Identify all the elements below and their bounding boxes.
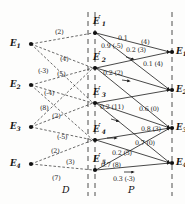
left-edge-label-d-e3-ep3: (2) — [52, 113, 60, 119]
dot-Ep4 — [93, 138, 97, 142]
right-edge-label-p-ep3-er3: 0.6 (0) — [139, 106, 159, 112]
node-label-E2: E2 — [10, 80, 21, 89]
node-label-Er3: E3 — [176, 123, 185, 132]
node-label-Ep4: E′4 — [93, 125, 106, 134]
figure-canvas: E1E2E3E4E′1E′2E′3E′4E′5E1E2E3E4 (2)(4)(5… — [0, 0, 185, 204]
right-edge-label-p-ep5-er4: 0.7 (8) — [101, 162, 121, 168]
node-subscript: 4 — [102, 128, 106, 135]
left-edge-label-d-e1-ep2: (4) — [60, 56, 68, 62]
node-subscript: 1 — [182, 50, 185, 57]
left-edge-label-d-e3-ep4: (-5) — [57, 134, 67, 140]
dot-E4 — [29, 162, 33, 166]
right-edge-label-p-ep3-er2: 0.2 (11) — [100, 104, 124, 110]
node-subscript: 2 — [16, 83, 20, 90]
dot-Ep5 — [93, 168, 97, 172]
node-label-Er1: E1 — [176, 47, 185, 56]
node-subscript: 4 — [182, 161, 185, 168]
region-P-label: P — [128, 184, 134, 195]
node-label-E4: E4 — [10, 159, 21, 168]
node-subscript: 1 — [102, 20, 106, 27]
node-label-Ep3: E′3 — [93, 88, 106, 97]
left-edge-label-d-e1-ep3: (5) — [57, 71, 65, 77]
right-edge-label-p-ep1-er1: 0.1 — [118, 35, 128, 41]
node-subscript: 3 — [182, 126, 185, 133]
right-edge-label-p-ep1-er1b: (4) — [141, 39, 149, 45]
dot-Ep1 — [93, 31, 97, 35]
node-prime-mark: ′ — [98, 122, 100, 132]
right-edge-label-p-ep5-er4b: 0.3 (-3) — [113, 176, 135, 182]
edge-p-ep4-er4 — [96, 140, 170, 163]
node-label-Er2: E2 — [176, 85, 185, 94]
edge-d-e2-ep4 — [31, 85, 93, 140]
node-label-E3: E3 — [10, 122, 21, 131]
node-prime-mark: ′ — [98, 50, 100, 60]
left-edge-label-d-e2-ep2: (-3) — [38, 68, 48, 74]
right-edge-label-p-ep4-er4b: 0.2 (5) — [112, 150, 132, 156]
node-subscript: 1 — [16, 42, 20, 49]
dot-E2 — [29, 83, 33, 87]
left-edge-label-d-e2-ep3: (-4) — [44, 90, 54, 96]
left-edge-label-d-e4-ep5b: (7) — [52, 175, 60, 181]
left-edge-label-d-e3-ep2: (8) — [40, 105, 48, 111]
node-label-Ep2: E′2 — [93, 53, 106, 62]
node-subscript: 2 — [182, 88, 185, 95]
node-label-E1: E1 — [10, 39, 21, 48]
dot-E1 — [29, 42, 33, 46]
edge-d-e4-ep5 — [31, 164, 93, 170]
dot-Ep2 — [93, 66, 97, 70]
edge-d-e4-ep4 — [31, 140, 93, 164]
left-edge-label-d-e1-ep1: (2) — [55, 29, 63, 35]
right-edge-label-p-ep2-er2: 0.1 (4) — [143, 61, 163, 67]
edge-p-ep3-er2 — [96, 90, 170, 103]
node-prime-mark: ′ — [98, 14, 100, 24]
right-edge-label-p-ep4-er3: 0.8 (3) — [141, 126, 161, 132]
dot-Er4 — [170, 161, 174, 165]
right-edge-label-p-ep2-er1: 0.2 (3) — [126, 47, 146, 53]
left-edge-label-d-e4-ep5: (3) — [66, 159, 74, 165]
dot-Er3 — [170, 126, 174, 130]
node-subscript: 2 — [102, 56, 106, 63]
edge-p-ep3-er4 — [96, 103, 170, 163]
dot-E3 — [29, 125, 33, 129]
node-label-Er4: E4 — [176, 158, 185, 167]
node-subscript: 3 — [102, 91, 106, 98]
left-edge-label-d-e4-ep4: (2) — [51, 148, 59, 154]
dot-Er1 — [170, 50, 174, 54]
left-edges-group — [31, 33, 93, 170]
right-edge-label-p-ep2-er2b: 0.2 (2) — [103, 70, 123, 76]
right-edge-label-p-ep4-er4: 0.7 (0) — [135, 140, 155, 146]
node-subscript: 3 — [16, 125, 20, 132]
edge-p-ep2-er3 — [96, 68, 170, 128]
node-label-Ep1: E′1 — [93, 17, 106, 26]
node-subscript: 4 — [16, 162, 20, 169]
region-D-label: D — [62, 184, 70, 195]
diagram-svg — [0, 0, 185, 204]
node-prime-mark: ′ — [98, 85, 100, 95]
right-edge-label-p-ep1-er2: 0.9 (-5) — [101, 43, 123, 49]
midarrow-2 — [122, 80, 129, 81]
dot-Ep3 — [93, 101, 97, 105]
dot-Er2 — [170, 88, 174, 92]
